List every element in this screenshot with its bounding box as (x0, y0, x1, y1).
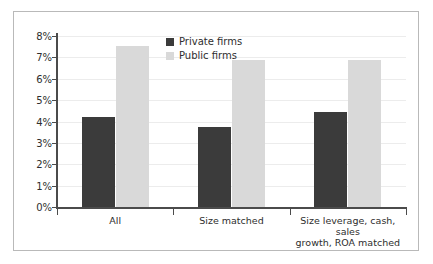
chart-legend: Private firms Public firms (166, 36, 242, 64)
x-axis-category-label: Size matched (173, 215, 289, 226)
bar-public-0 (116, 46, 149, 207)
y-axis-tick (52, 207, 58, 208)
bar-public-2 (348, 60, 381, 207)
x-axis-line (56, 207, 407, 209)
y-axis-tick-label: 0% (8, 202, 52, 213)
bar-private-2 (314, 112, 347, 207)
y-axis-tick-label: 4% (8, 117, 52, 128)
y-axis-tick-label: 3% (8, 138, 52, 149)
y-axis-tick-label: 7% (8, 52, 52, 63)
legend-item-public: Public firms (166, 50, 242, 62)
bar-private-1 (198, 127, 231, 207)
legend-label-private: Private firms (179, 37, 242, 47)
x-axis-category-label: Size leverage, cash, salesgrowth, ROA ma… (290, 215, 406, 248)
bar-public-1 (232, 60, 265, 207)
x-axis-tick (406, 209, 407, 215)
bar-private-0 (82, 117, 115, 207)
legend-label-public: Public firms (179, 51, 237, 61)
y-axis-tick-label: 8% (8, 31, 52, 42)
y-axis-tick-label: 1% (8, 181, 52, 192)
y-axis-tick-label: 6% (8, 74, 52, 85)
x-axis-category-label: All (57, 215, 173, 226)
y-axis-tick-label: 5% (8, 95, 52, 106)
chart-frame: 8%7%6%5%4%3%2%1%0% AllSize matchedSize l… (13, 11, 419, 251)
legend-swatch-public-icon (166, 52, 174, 60)
legend-item-private: Private firms (166, 36, 242, 48)
legend-swatch-private-icon (166, 38, 174, 46)
y-axis-tick-label: 2% (8, 159, 52, 170)
